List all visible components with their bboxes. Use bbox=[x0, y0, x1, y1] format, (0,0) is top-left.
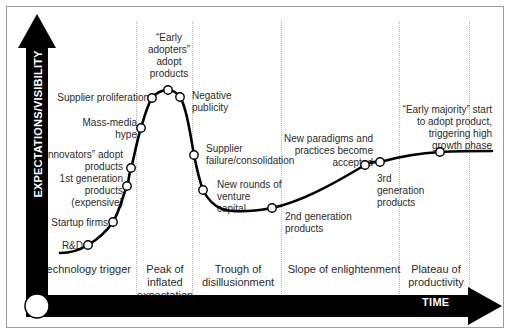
phase-label-technology-trigger: Technology trigger bbox=[33, 263, 139, 276]
annotation-first-generation: 1st generation products (expensive) bbox=[13, 173, 123, 209]
y-axis-title: EXPECTATIONS/VISIBILITY bbox=[32, 24, 44, 224]
annotation-early-majority: “Early majority” start to adopt product,… bbox=[377, 104, 492, 152]
annotation-startup-firms: Startup firms bbox=[13, 217, 108, 229]
phase-label-trough-of-disillusionment: Trough of disillusionment bbox=[190, 263, 286, 289]
annotation-rnd: R&D bbox=[13, 240, 83, 252]
annotation-negative-publicity: Negative publicity bbox=[192, 90, 262, 114]
annotation-early-adopters: “Early adopters” adopt products bbox=[130, 32, 208, 80]
gridline-5 bbox=[469, 21, 470, 296]
annotation-mass-media-hype: Mass-media hype bbox=[47, 117, 137, 141]
phase-label-slope-of-enlightenment: Slope of enlightenment bbox=[285, 263, 403, 276]
annotation-supplier-proliferation: Supplier proliferation bbox=[37, 92, 149, 104]
annotation-innovators-adopt: “Innovators” adopt products bbox=[13, 149, 123, 173]
x-axis-title: TIME bbox=[422, 296, 449, 308]
figure-frame: Technology trigger Peak of inflated expe… bbox=[6, 6, 504, 328]
hype-cycle-figure: Technology trigger Peak of inflated expe… bbox=[0, 0, 510, 334]
annotation-new-paradigms: New paradigms and practices become accep… bbox=[277, 133, 373, 169]
gridline-4 bbox=[399, 21, 400, 296]
phase-label-peak-of-inflated-expectation: Peak of inflated expectation bbox=[134, 263, 196, 302]
annotation-second-generation: 2nd generation products bbox=[285, 211, 377, 235]
annotation-third-generation: 3rd generation products bbox=[377, 173, 439, 209]
annotation-new-rounds-venture-capital: New rounds of venture capital bbox=[217, 179, 299, 215]
phase-label-plateau-of-productivity: Plateau of productivity bbox=[399, 263, 473, 289]
